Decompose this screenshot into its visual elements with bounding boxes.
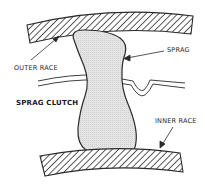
inner-race-leader bbox=[160, 127, 173, 148]
sprag-label: SPRAG bbox=[167, 46, 190, 54]
inner-race bbox=[40, 149, 183, 176]
diagram-artwork bbox=[0, 0, 205, 188]
outer-race-label: OUTER RACE bbox=[14, 64, 58, 72]
sprag-clutch-diagram: OUTER RACE SPRAG SPRAG CLUTCH INNER RACE bbox=[0, 0, 205, 188]
inner-race-label: INNER RACE bbox=[155, 117, 197, 125]
sprag-leader bbox=[124, 51, 164, 61]
diagram-title: SPRAG CLUTCH bbox=[16, 99, 78, 107]
sprag bbox=[73, 30, 136, 158]
